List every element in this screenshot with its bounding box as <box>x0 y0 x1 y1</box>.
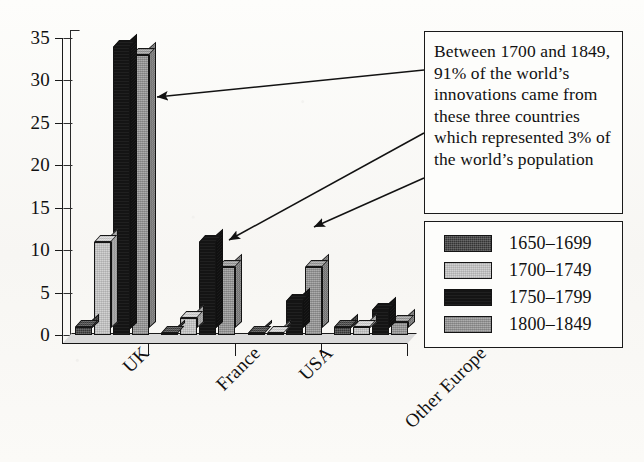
bar-face <box>353 327 370 335</box>
y-axis-depth-line <box>70 30 71 336</box>
bar-other-europe-series-0 <box>334 327 351 335</box>
x-tick-mark <box>407 344 408 356</box>
bar-france-series-0 <box>161 333 178 336</box>
legend-item: 1650–1699 <box>425 230 622 257</box>
legend-label: 1750–1799 <box>509 287 592 308</box>
annotation-callout: Between 1700 and 1849, 91% of the world’… <box>424 31 623 214</box>
legend-swatch <box>444 289 492 306</box>
y-axis-label: 25 <box>31 113 50 132</box>
y-tick-mark-depth <box>63 165 73 166</box>
bar-side <box>111 228 118 328</box>
y-tick-mark-depth <box>63 123 73 124</box>
y-tick-mark-depth <box>63 250 73 251</box>
bar-usa-series-0 <box>248 333 265 336</box>
bar-face <box>334 327 351 335</box>
y-axis-label: 35 <box>31 28 50 47</box>
y-axis-label: 20 <box>31 155 50 174</box>
bar-side <box>130 33 137 328</box>
y-axis-label: 0 <box>40 325 50 344</box>
bar-face <box>286 301 303 335</box>
bar-chart: 35302520151050 UKFranceUSAOther Europe B… <box>0 0 644 462</box>
x-category-label: Other Europe <box>400 342 491 433</box>
bar-face <box>75 327 92 335</box>
y-axis-label: 15 <box>31 198 50 217</box>
bar-side <box>216 228 223 328</box>
legend-item: 1800–1849 <box>425 311 622 338</box>
bar-usa-series-1 <box>267 333 284 336</box>
bar-other-europe-series-1 <box>353 327 370 335</box>
chart-legend: 1650–16991700–17491750–17991800–1849 <box>424 221 623 348</box>
y-axis-label: 10 <box>31 240 50 259</box>
legend-label: 1650–1699 <box>509 233 592 254</box>
y-axis-line <box>62 38 63 344</box>
bar-uk-series-0 <box>75 327 92 335</box>
legend-item: 1700–1749 <box>425 257 622 284</box>
bar-side <box>389 296 396 328</box>
legend-label: 1700–1749 <box>509 260 592 281</box>
legend-swatch <box>444 316 492 333</box>
y-axis-label: 5 <box>40 283 50 302</box>
y-tick-mark-depth <box>63 208 73 209</box>
annotation-text: Between 1700 and 1849, 91% of the world’… <box>434 41 611 169</box>
legend-swatch <box>444 262 492 279</box>
legend-swatch <box>444 235 492 252</box>
y-axis-label: 30 <box>31 71 50 90</box>
x-category-label: USA <box>294 342 337 385</box>
y-tick-mark-depth <box>63 80 73 81</box>
legend-label: 1800–1849 <box>509 314 592 335</box>
y-tick-mark-depth <box>63 38 73 39</box>
legend-item: 1750–1799 <box>425 284 622 311</box>
bar-usa-series-2 <box>286 301 303 335</box>
bar-side <box>149 42 156 328</box>
x-category-label: France <box>212 342 265 395</box>
plot-area: 35302520151050 UKFranceUSAOther Europe <box>62 38 407 344</box>
y-tick-mark-depth <box>63 293 73 294</box>
